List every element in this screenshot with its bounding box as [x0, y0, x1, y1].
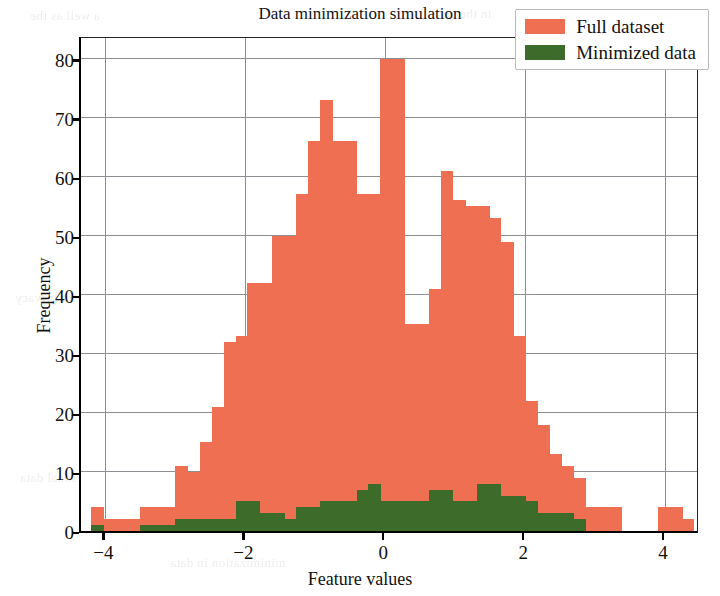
x-axis-label: Feature values: [0, 569, 720, 590]
histogram-bar: [417, 501, 430, 531]
histogram-bar: [284, 519, 297, 531]
histogram-bar: [320, 501, 333, 531]
histogram-bar: [357, 194, 370, 531]
y-axis-label: Frequency: [34, 221, 55, 371]
histogram-bar: [477, 484, 490, 531]
histogram-bar: [247, 283, 260, 531]
x-axis-tick-mark: [242, 533, 244, 540]
legend-item: Full dataset: [525, 17, 696, 36]
histogram-figure: Data minimization simulation 01020304050…: [0, 0, 720, 596]
histogram-bar: [465, 501, 478, 531]
legend-swatch-icon: [525, 19, 565, 34]
x-axis-tick-mark: [662, 533, 664, 540]
histogram-bar: [682, 519, 695, 531]
histogram-bar: [562, 513, 575, 531]
x-axis-tick-mark: [522, 533, 524, 540]
histogram-bar: [357, 490, 370, 531]
legend-label: Minimized data: [576, 43, 696, 62]
chart-legend: Full datasetMinimized data: [515, 9, 709, 70]
histogram-bar: [320, 100, 333, 531]
x-axis-tick-label: −4: [73, 543, 133, 562]
histogram-bar: [175, 519, 188, 531]
histogram-bar: [537, 513, 550, 531]
histogram-bar: [296, 507, 309, 531]
histogram-bar: [103, 519, 116, 531]
histogram-bar: [332, 141, 345, 531]
histogram-bar: [308, 141, 321, 531]
y-axis-tick-label: 30: [55, 346, 74, 365]
histogram-bar: [272, 236, 285, 531]
histogram-bar: [417, 324, 430, 531]
legend-item: Minimized data: [525, 43, 696, 62]
histogram-bar: [368, 484, 381, 531]
histogram-bar: [429, 490, 442, 531]
x-axis-tick-label: 2: [493, 543, 553, 562]
histogram-bar: [441, 171, 454, 531]
y-axis-tick-label: 0: [65, 523, 75, 542]
y-axis-tick-label: 20: [55, 405, 74, 424]
histogram-bar: [247, 501, 260, 531]
y-axis-tick-label: 60: [55, 169, 74, 188]
histogram-bar: [525, 501, 538, 531]
histogram-bar: [91, 525, 104, 531]
histogram-bar: [115, 519, 128, 531]
histogram-bar: [513, 496, 526, 531]
histogram-bar: [392, 59, 405, 531]
histogram-bar: [380, 501, 393, 531]
plot-area: [79, 37, 698, 533]
histogram-bar: [187, 519, 200, 531]
x-axis-tick-label: 0: [353, 543, 413, 562]
histogram-bar: [272, 513, 285, 531]
histogram-bar: [405, 324, 418, 531]
histogram-bar: [453, 501, 466, 531]
histogram-bar: [164, 525, 177, 531]
x-axis-tick-mark: [382, 533, 384, 540]
histogram-bar: [405, 501, 418, 531]
y-axis-tick-label: 80: [55, 51, 74, 70]
histogram-bar: [489, 484, 502, 531]
histogram-bar: [501, 496, 514, 531]
x-axis-tick-mark: [102, 533, 104, 540]
histogram-bar: [127, 519, 140, 531]
histogram-bar: [465, 206, 478, 531]
histogram-bar: [573, 519, 586, 531]
histogram-bar: [610, 507, 623, 531]
histogram-bar: [392, 501, 405, 531]
legend-swatch-icon: [525, 45, 565, 60]
histogram-bar: [501, 242, 514, 531]
histogram-bar: [224, 519, 237, 531]
y-axis-tick-label: 50: [55, 228, 74, 247]
histogram-bar: [296, 194, 309, 531]
histogram-bar: [212, 407, 225, 531]
legend-label: Full dataset: [576, 17, 664, 36]
histogram-bar: [140, 525, 153, 531]
histogram-bar: [670, 507, 683, 531]
histogram-bar: [380, 59, 393, 531]
histogram-bar: [332, 501, 345, 531]
histogram-bar: [260, 283, 273, 531]
histogram-bar: [344, 141, 357, 531]
histogram-bar: [597, 507, 610, 531]
histogram-bar: [344, 501, 357, 531]
histogram-bar: [212, 519, 225, 531]
y-axis-tick-label: 70: [55, 110, 74, 129]
histogram-bar: [308, 507, 321, 531]
histogram-bar: [585, 507, 598, 531]
histogram-bar: [658, 507, 671, 531]
histogram-bar: [549, 513, 562, 531]
histogram-bar: [200, 519, 213, 531]
histogram-bar: [236, 501, 249, 531]
bars-layer: [81, 38, 697, 531]
y-axis-tick-label: 40: [55, 287, 74, 306]
histogram-bar: [224, 342, 237, 531]
histogram-bar: [453, 200, 466, 531]
histogram-bar: [200, 442, 213, 531]
histogram-bar: [477, 206, 490, 531]
x-axis-tick-label: 4: [633, 543, 693, 562]
histogram-bar: [260, 513, 273, 531]
x-axis-tick-label: −2: [213, 543, 273, 562]
histogram-bar: [441, 490, 454, 531]
histogram-bar: [368, 194, 381, 531]
histogram-bar: [152, 525, 165, 531]
histogram-bar: [284, 236, 297, 531]
